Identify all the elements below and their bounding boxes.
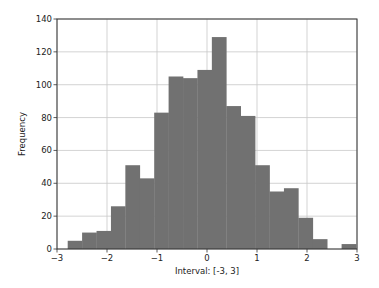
histogram-bar: [68, 241, 83, 249]
x-tick-label: 3: [354, 253, 359, 263]
y-tick-label: 60: [41, 145, 52, 155]
x-axis-label: Interval: [-3, 3]: [175, 266, 239, 276]
histogram-bar: [111, 206, 126, 249]
y-tick-label: 0: [47, 244, 52, 254]
x-tick-label: −2: [101, 253, 114, 263]
y-tick-label: 140: [36, 14, 52, 24]
histogram-bar: [313, 239, 328, 249]
histogram-bar: [97, 231, 112, 249]
histogram-bar: [270, 192, 285, 250]
histogram-bar: [284, 188, 299, 249]
y-tick-label: 40: [41, 178, 52, 188]
x-tick-label: −1: [151, 253, 164, 263]
x-tick-label: 1: [254, 253, 259, 263]
histogram-bar: [342, 244, 357, 249]
y-axis-ticks: 020406080100120140: [36, 14, 57, 254]
histogram-bar: [226, 106, 241, 249]
histogram-chart: −3−2−10123 020406080100120140 Interval: …: [0, 0, 379, 288]
x-tick-label: −3: [51, 253, 64, 263]
histogram-bar: [183, 78, 198, 249]
x-axis-ticks: −3−2−10123: [51, 249, 360, 263]
histogram-bar: [82, 233, 97, 249]
x-tick-label: 2: [304, 253, 309, 263]
histogram-bar: [140, 178, 155, 249]
y-tick-label: 100: [36, 80, 52, 90]
histogram-bar: [169, 77, 184, 250]
y-axis-label: Frequency: [17, 112, 27, 156]
y-tick-label: 20: [41, 211, 52, 221]
histogram-bar: [154, 113, 169, 249]
histogram-bar: [197, 70, 212, 249]
histogram-bar: [255, 165, 270, 249]
y-tick-label: 120: [36, 47, 52, 57]
histogram-bar: [241, 116, 256, 249]
histogram-bar: [298, 218, 313, 249]
histogram-bar: [125, 165, 140, 249]
histogram-bars: [68, 37, 357, 249]
y-tick-label: 80: [41, 113, 52, 123]
histogram-bar: [212, 37, 227, 249]
x-tick-label: 0: [204, 253, 209, 263]
